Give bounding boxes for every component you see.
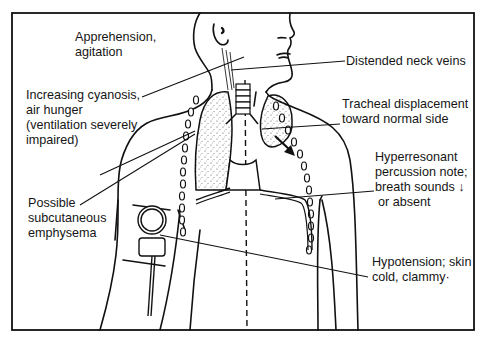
label-line: or absent: [375, 195, 467, 210]
label-line: Apprehension,: [75, 30, 156, 45]
diagram-canvas: Apprehension, agitation Distended neck v…: [0, 0, 486, 338]
label-line: subcutaneous: [28, 211, 106, 226]
label-cyanosis: Increasing cyanosis, air hunger (ventila…: [26, 88, 140, 148]
blood-pressure-cuff: [138, 206, 166, 316]
label-line: Increasing cyanosis,: [26, 88, 140, 103]
label-distended-neck-veins: Distended neck veins: [346, 54, 466, 69]
label-line: toward normal side: [342, 112, 468, 127]
head-outline: [194, 13, 295, 92]
label-line: air hunger: [26, 103, 140, 118]
label-line: impaired): [26, 133, 140, 148]
label-line: Tracheal displacement: [342, 97, 468, 112]
label-hypotension: Hypotension; skin cold, clammy·: [372, 255, 471, 285]
label-line: Possible: [28, 196, 106, 211]
label-subcutaneous-emphysema: Possible subcutaneous emphysema: [28, 196, 106, 241]
label-line: (ventilation severely: [26, 118, 140, 133]
label-tracheal-displacement: Tracheal displacement toward normal side: [342, 97, 468, 127]
midline: [245, 80, 247, 330]
label-line: percussion note;: [375, 165, 467, 180]
label-line: emphysema: [28, 226, 106, 241]
label-line: agitation: [75, 45, 156, 60]
label-apprehension: Apprehension, agitation: [75, 30, 156, 60]
neck-muscles: [222, 48, 234, 90]
label-line: Hyperresonant: [375, 150, 467, 165]
label-line: breath sounds ↓: [375, 180, 467, 195]
label-hyperresonant: Hyperresonant percussion note; breath so…: [375, 150, 467, 210]
label-line: Distended neck veins: [346, 54, 466, 69]
label-line: Hypotension; skin: [372, 255, 471, 270]
label-line: cold, clammy·: [372, 270, 471, 285]
right-lung-collapsed-side: [195, 92, 232, 190]
